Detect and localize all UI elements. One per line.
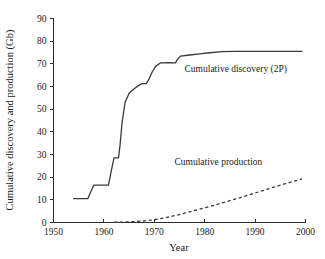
y-axis-ticks: 0102030405060708090	[37, 14, 54, 228]
x-tick-label: 1950	[44, 227, 63, 237]
y-tick-label: 40	[37, 127, 47, 137]
y-tick-label: 30	[37, 150, 47, 160]
series-annotation-label: Cumulative production	[174, 157, 262, 167]
y-axis-title: Cumulative discovery and production (Gb)	[4, 29, 16, 210]
series-annotations: Cumulative discovery (2P)Cumulative prod…	[174, 64, 286, 167]
line-chart: 0102030405060708090 19501960197019801990…	[0, 0, 325, 259]
y-tick-label: 90	[37, 14, 47, 24]
x-tick-label: 1980	[195, 227, 214, 237]
y-tick-label: 60	[37, 82, 47, 92]
y-tick-label: 50	[37, 104, 47, 114]
series-annotation-label: Cumulative discovery (2P)	[185, 64, 287, 75]
x-tick-label: 1960	[94, 227, 113, 237]
x-tick-label: 2000	[296, 227, 315, 237]
series-cumulative-production	[114, 179, 302, 222]
x-axis-title: Year	[169, 242, 189, 253]
figure-container: 0102030405060708090 19501960197019801990…	[0, 0, 325, 259]
x-tick-label: 1990	[246, 227, 265, 237]
x-tick-label: 1970	[145, 227, 164, 237]
x-axis-ticks: 195019601970198019902000	[44, 219, 315, 237]
y-tick-label: 70	[37, 59, 47, 69]
y-tick-label: 80	[37, 36, 47, 46]
y-tick-label: 10	[37, 195, 47, 205]
y-tick-label: 20	[37, 172, 47, 182]
data-series-group	[74, 51, 302, 222]
